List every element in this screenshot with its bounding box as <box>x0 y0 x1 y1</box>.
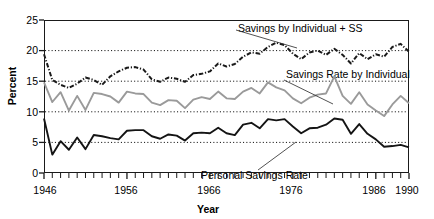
series-line <box>44 76 409 116</box>
y-axis-ticks <box>39 20 44 173</box>
chart-canvas <box>0 0 434 219</box>
x-axis-ticks <box>44 173 409 179</box>
series-line <box>44 119 409 155</box>
leader-line <box>258 142 296 170</box>
leader-line <box>284 80 333 104</box>
data-series-group <box>44 43 409 155</box>
savings-rate-chart: 25 20 15 10 5 0 1946 1956 1966 1976 1986… <box>0 0 434 219</box>
grid-lines <box>45 51 408 143</box>
leader-line <box>236 30 297 48</box>
